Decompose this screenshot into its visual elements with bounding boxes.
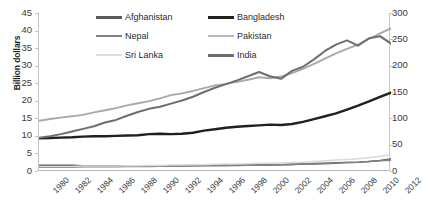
legend-label: Afghanistan: [125, 12, 173, 22]
legend-swatch-icon: [208, 35, 234, 37]
y-axis-right-tick-300: 300: [392, 8, 418, 18]
series-line-bangladesh: [39, 93, 391, 139]
y-axis-left-tick-5: 5: [14, 148, 32, 158]
x-axis-tick-1996: 1996: [227, 175, 247, 195]
x-axis-tick-2004: 2004: [315, 175, 335, 195]
y-axis-right-tick-250: 250: [392, 34, 418, 44]
y-axis-right-tick-100: 100: [392, 113, 418, 123]
y-axis-left-tick-0: 0: [14, 166, 32, 176]
legend-swatch-icon: [96, 54, 122, 56]
y-axis-left-tick-40: 40: [14, 25, 32, 35]
y-axis-right-tick-50: 50: [392, 139, 418, 149]
chart-legend: AfghanistanBangladeshNepalPakistanSri La…: [96, 10, 296, 66]
legend-item-bangladesh[interactable]: Bangladesh: [208, 10, 285, 24]
chart-container: Billion dollars 454035302520151050 30025…: [0, 0, 423, 211]
x-axis-tick-2006: 2006: [337, 175, 357, 195]
y-axis-right-tick-200: 200: [392, 60, 418, 70]
legend-swatch-icon: [96, 16, 122, 19]
x-axis-tick-1990: 1990: [161, 175, 181, 195]
x-axis-tick-1994: 1994: [205, 175, 225, 195]
x-axis-tick-2002: 2002: [293, 175, 313, 195]
y-axis-left-tick-35: 35: [14, 43, 32, 53]
y-axis-right-tick-0: 0: [392, 166, 418, 176]
y-axis-left-tick-30: 30: [14, 60, 32, 70]
y-axis-left-ticklabels: 454035302520151050: [14, 0, 32, 211]
legend-label: India: [237, 50, 257, 60]
legend-label: Nepal: [125, 31, 149, 41]
x-axis-tick-1992: 1992: [183, 175, 203, 195]
y-axis-left-tick-25: 25: [14, 78, 32, 88]
legend-label: Sri Lanka: [125, 50, 163, 60]
x-axis-tick-1988: 1988: [139, 175, 159, 195]
tickmark: [390, 171, 393, 172]
y-axis-right-tick-150: 150: [392, 87, 418, 97]
x-axis-tick-1984: 1984: [95, 175, 115, 195]
x-axis-tick-1982: 1982: [73, 175, 93, 195]
legend-item-sri-lanka[interactable]: Sri Lanka: [96, 48, 163, 62]
series-line-sri-lanka: [39, 155, 391, 167]
x-axis-tick-2000: 2000: [271, 175, 291, 195]
legend-item-nepal[interactable]: Nepal: [96, 29, 149, 43]
legend-label: Pakistan: [237, 31, 272, 41]
legend-item-pakistan[interactable]: Pakistan: [208, 29, 272, 43]
x-axis-tick-2008: 2008: [359, 175, 379, 195]
legend-swatch-icon: [208, 16, 234, 19]
y-axis-left-tick-20: 20: [14, 95, 32, 105]
legend-swatch-icon: [208, 54, 234, 57]
y-axis-left-tick-15: 15: [14, 113, 32, 123]
x-axis-ticklabels: 1980198219841986198819901992199419961998…: [38, 172, 390, 211]
legend-swatch-icon: [96, 35, 122, 37]
legend-label: Bangladesh: [237, 12, 285, 22]
x-axis-tick-1986: 1986: [117, 175, 137, 195]
y-axis-left-tick-45: 45: [14, 8, 32, 18]
legend-item-india[interactable]: India: [208, 48, 257, 62]
y-axis-left-tick-10: 10: [14, 130, 32, 140]
x-axis-tick-1998: 1998: [249, 175, 269, 195]
legend-item-afghanistan[interactable]: Afghanistan: [96, 10, 173, 24]
x-axis-tick-1980: 1980: [51, 175, 71, 195]
